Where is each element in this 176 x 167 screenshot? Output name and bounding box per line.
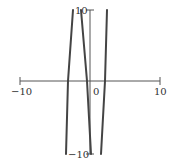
x-label-max: 10 <box>154 86 167 97</box>
y-label-min: −10 <box>68 149 89 160</box>
plot-canvas: −10 0 10 10 −10 <box>0 0 176 167</box>
cubic-curve <box>66 10 107 154</box>
x-label-zero: 0 <box>93 86 99 97</box>
y-label-max: 10 <box>75 5 88 16</box>
x-label-min: −10 <box>11 86 32 97</box>
